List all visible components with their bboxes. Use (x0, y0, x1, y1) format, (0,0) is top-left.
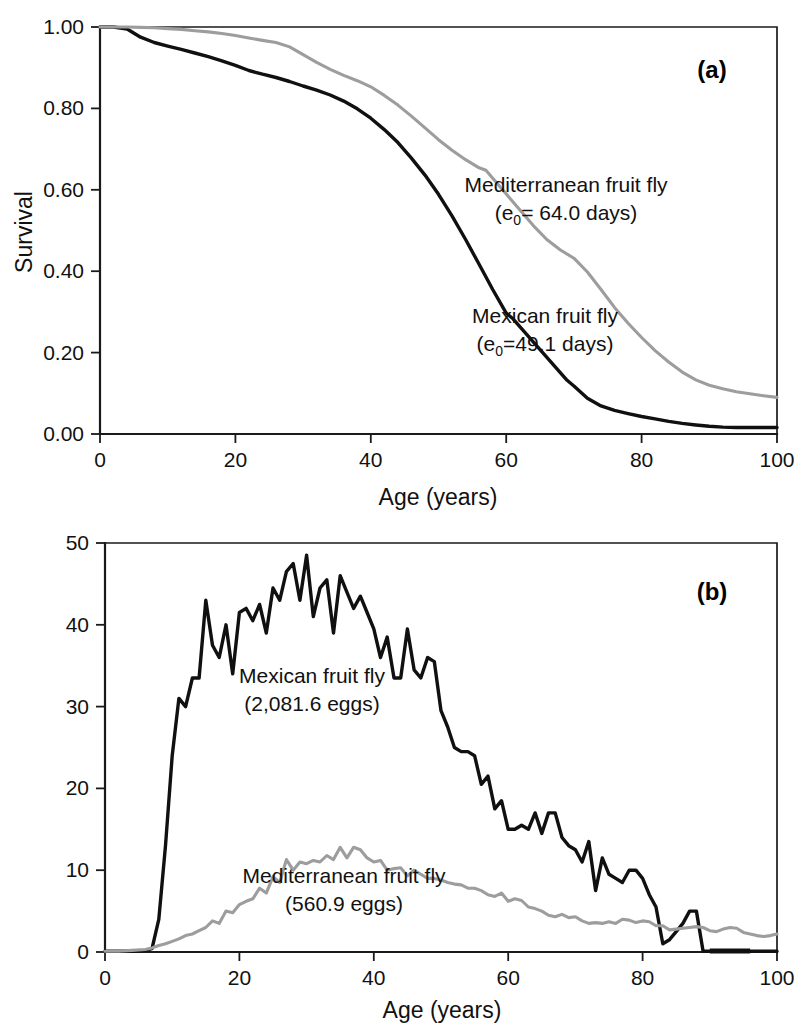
series-line-mexican (105, 555, 777, 951)
y-tick-label: 20 (66, 776, 89, 799)
y-tick-label: 50 (66, 531, 89, 554)
figure-container: 0204060801000.000.200.400.600.801.00 Age… (0, 0, 808, 1029)
x-tick-label: 0 (94, 448, 106, 471)
y-tick-label: 0.80 (43, 96, 84, 119)
panel-b-tag: (b) (697, 578, 728, 605)
annot-post: = 64.0 days) (521, 201, 637, 224)
x-tick-label: 40 (359, 448, 382, 471)
y-tick-label: 0.20 (43, 341, 84, 364)
x-tick-label: 80 (631, 966, 654, 989)
panel-b-x-axis-title: Age (years) (383, 997, 502, 1023)
panel-a-ticks (91, 27, 777, 443)
panel-a-annotation-mexican-name: Mexican fruit fly (472, 304, 618, 327)
x-tick-label: 40 (362, 966, 385, 989)
x-tick-label: 60 (495, 448, 518, 471)
y-tick-label: 0.60 (43, 178, 84, 201)
panel-b-annotation-mexican-value: (2,081.6 eggs) (244, 692, 379, 715)
panel-b-annotation-mexican-name: Mexican fruit fly (239, 664, 385, 687)
annot-subscript: 0 (513, 212, 521, 228)
panel-b-series (105, 555, 777, 951)
panel-a-svg: 0204060801000.000.200.400.600.801.00 Age… (0, 0, 808, 515)
x-tick-label: 100 (759, 448, 794, 471)
panel-a-series (100, 27, 777, 428)
panel-a-frame (100, 27, 777, 434)
panel-b-ticks (96, 543, 777, 961)
y-tick-label: 0.40 (43, 259, 84, 282)
x-tick-label: 80 (630, 448, 653, 471)
panel-b-svg: 02040608010001020304050 Age (years) Eggs… (0, 515, 808, 1029)
annot-post: =49.1 days) (503, 332, 613, 355)
x-tick-label: 60 (497, 966, 520, 989)
y-tick-label: 30 (66, 695, 89, 718)
panel-a-annotation-mexican-value: (e0=49.1 days) (477, 332, 614, 359)
x-tick-label: 20 (224, 448, 247, 471)
panel-b-annotation-mediterranean-name: Mediterranean fruit fly (242, 864, 446, 887)
y-tick-label: 0.00 (43, 422, 84, 445)
panel-a-y-axis-title: Survival (11, 191, 37, 273)
annot-pre: (e (477, 332, 496, 355)
panel-b-annotation-mediterranean-value: (560.9 eggs) (285, 892, 403, 915)
x-tick-label: 100 (759, 966, 794, 989)
x-tick-label: 20 (228, 966, 251, 989)
panel-b-fecundity: 02040608010001020304050 Age (years) Eggs… (0, 515, 808, 1029)
panel-a-annotation-mediterranean-name: Mediterranean fruit fly (464, 173, 668, 196)
annot-subscript: 0 (495, 343, 503, 359)
series-line-mediterranean (105, 847, 777, 951)
series-line-mediterranean (100, 27, 777, 397)
y-tick-label: 40 (66, 613, 89, 636)
panel-a-x-axis-title: Age (years) (379, 484, 498, 510)
y-tick-label: 0 (77, 940, 89, 963)
x-tick-label: 0 (99, 966, 111, 989)
y-tick-label: 10 (66, 858, 89, 881)
y-tick-label: 1.00 (43, 15, 84, 38)
panel-a-survival: 0204060801000.000.200.400.600.801.00 Age… (0, 0, 808, 515)
annot-pre: (e (495, 201, 514, 224)
panel-a-tag: (a) (697, 56, 726, 83)
panel-a-tick-labels: 0204060801000.000.200.400.600.801.00 (43, 15, 794, 471)
